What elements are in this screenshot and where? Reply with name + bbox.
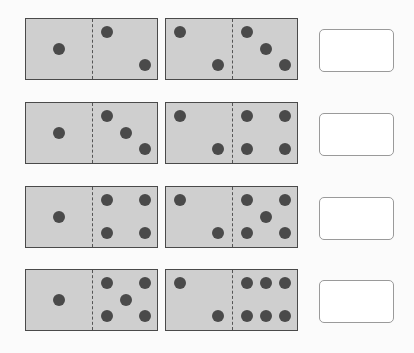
domino-half-right [233, 103, 299, 163]
pip-dot-icon [53, 43, 65, 55]
domino-tile [165, 102, 298, 164]
pip-dot-icon [53, 127, 65, 139]
domino-row [0, 18, 414, 83]
pip-dot-icon [241, 110, 253, 122]
domino-row [0, 102, 414, 167]
answer-box[interactable] [319, 29, 394, 72]
domino-half-left [166, 19, 232, 79]
domino-half-right [93, 19, 159, 79]
domino-tile [165, 18, 298, 80]
pip-dot-icon [279, 227, 291, 239]
pip-dot-icon [101, 310, 113, 322]
pip-dot-icon [241, 26, 253, 38]
pip-dot-icon [279, 110, 291, 122]
domino-half-left [166, 270, 232, 330]
pip-dot-icon [279, 143, 291, 155]
domino-half-right [233, 270, 299, 330]
domino-tile [25, 18, 158, 80]
pip-dot-icon [139, 277, 151, 289]
pip-dot-icon [101, 26, 113, 38]
domino-tile [165, 186, 298, 248]
pip-dot-icon [101, 194, 113, 206]
domino-half-right [93, 270, 159, 330]
pip-dot-icon [260, 211, 272, 223]
domino-half-right [93, 187, 159, 247]
pip-dot-icon [212, 227, 224, 239]
pip-dot-icon [139, 310, 151, 322]
domino-half-right [233, 19, 299, 79]
pip-dot-icon [212, 143, 224, 155]
pip-dot-icon [241, 194, 253, 206]
pip-dot-icon [241, 227, 253, 239]
pip-dot-icon [241, 310, 253, 322]
pip-dot-icon [174, 194, 186, 206]
pip-dot-icon [120, 127, 132, 139]
domino-row [0, 186, 414, 251]
pip-dot-icon [260, 43, 272, 55]
pip-dot-icon [139, 143, 151, 155]
domino-divider [92, 270, 93, 330]
pip-dot-icon [139, 194, 151, 206]
pip-dot-icon [174, 277, 186, 289]
answer-box[interactable] [319, 197, 394, 240]
answer-box[interactable] [319, 280, 394, 323]
pip-dot-icon [260, 310, 272, 322]
domino-tile [25, 102, 158, 164]
pip-dot-icon [212, 59, 224, 71]
pip-dot-icon [101, 110, 113, 122]
pip-dot-icon [212, 310, 224, 322]
answer-box[interactable] [319, 113, 394, 156]
domino-half-right [93, 103, 159, 163]
pip-dot-icon [241, 277, 253, 289]
domino-half-left [166, 187, 232, 247]
pip-dot-icon [53, 294, 65, 306]
pip-dot-icon [101, 227, 113, 239]
domino-half-left [26, 270, 92, 330]
domino-half-left [26, 19, 92, 79]
domino-tile [25, 269, 158, 331]
pip-dot-icon [279, 59, 291, 71]
domino-half-left [26, 187, 92, 247]
domino-half-right [233, 187, 299, 247]
domino-divider [92, 187, 93, 247]
pip-dot-icon [139, 59, 151, 71]
domino-tile [25, 186, 158, 248]
pip-dot-icon [174, 110, 186, 122]
pip-dot-icon [120, 294, 132, 306]
pip-dot-icon [279, 310, 291, 322]
domino-half-left [26, 103, 92, 163]
domino-divider [92, 19, 93, 79]
pip-dot-icon [174, 26, 186, 38]
pip-dot-icon [279, 277, 291, 289]
domino-divider [232, 103, 233, 163]
pip-dot-icon [139, 227, 151, 239]
pip-dot-icon [260, 277, 272, 289]
domino-divider [232, 270, 233, 330]
domino-row [0, 269, 414, 334]
domino-tile [165, 269, 298, 331]
domino-divider [232, 19, 233, 79]
pip-dot-icon [53, 211, 65, 223]
domino-half-left [166, 103, 232, 163]
domino-divider [232, 187, 233, 247]
pip-dot-icon [101, 277, 113, 289]
pip-dot-icon [241, 143, 253, 155]
domino-divider [92, 103, 93, 163]
pip-dot-icon [279, 194, 291, 206]
